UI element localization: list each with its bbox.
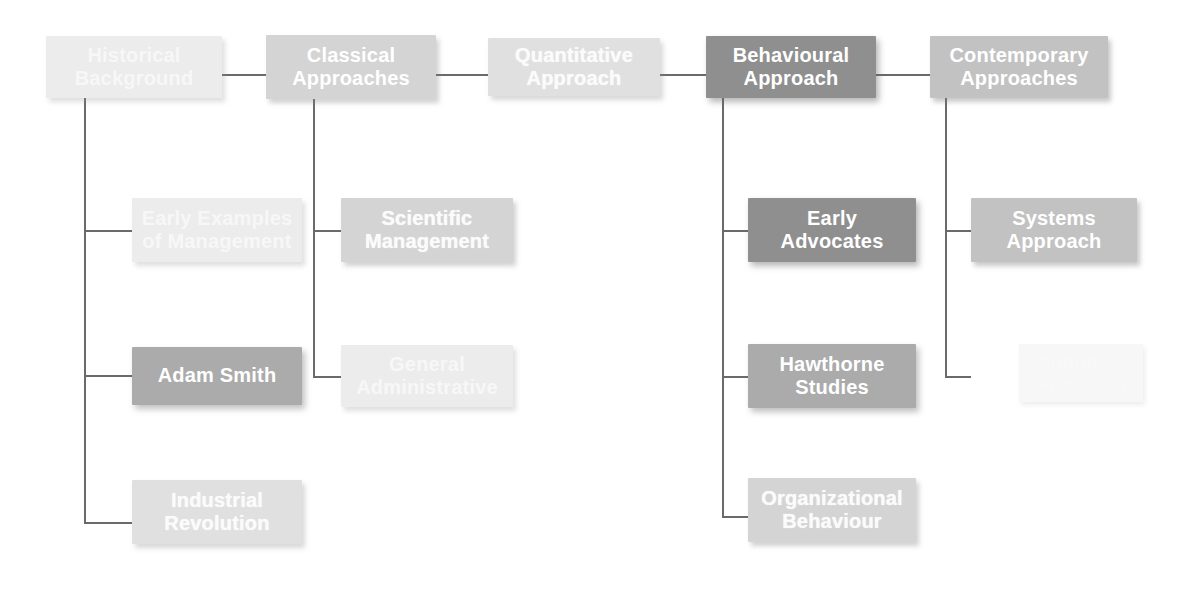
node-label-adam-smith: Adam Smith bbox=[138, 364, 296, 387]
connector-classical-to-quantitative bbox=[434, 74, 490, 76]
spine-historical-background bbox=[84, 98, 86, 524]
node-label-quantitative-approach: Quantitative Approach bbox=[494, 44, 654, 90]
node-label-early-examples-of-management: Early Examples of Management bbox=[138, 207, 296, 253]
node-industrial-revolution[interactable]: Industrial Revolution bbox=[132, 480, 302, 544]
node-historical-background[interactable]: Historical Background bbox=[46, 36, 222, 98]
node-label-contingency-approach: Contingency Approach bbox=[1025, 351, 1137, 395]
node-quantitative-approach[interactable]: Quantitative Approach bbox=[488, 38, 660, 96]
node-label-organizational-behaviour: Organizational Behaviour bbox=[754, 487, 910, 533]
org-chart-canvas: Historical Background Classical Approach… bbox=[0, 0, 1191, 593]
connector-classical-general-administrative bbox=[313, 376, 341, 378]
connector-behavioural-early-advocates bbox=[722, 230, 748, 232]
connector-historical-adam-smith bbox=[84, 375, 132, 377]
node-label-classical-approaches: Classical Approaches bbox=[272, 44, 430, 90]
node-adam-smith[interactable]: Adam Smith bbox=[132, 347, 302, 405]
node-systems-approach[interactable]: Systems Approach bbox=[971, 198, 1137, 262]
node-label-historical-background: Historical Background bbox=[52, 44, 216, 90]
connector-historical-industrial-revolution bbox=[84, 522, 132, 524]
node-early-examples-of-management[interactable]: Early Examples of Management bbox=[132, 198, 302, 262]
node-label-behavioural-approach: Behavioural Approach bbox=[712, 44, 870, 90]
connector-classical-scientific-management bbox=[313, 230, 341, 232]
node-label-industrial-revolution: Industrial Revolution bbox=[138, 489, 296, 535]
node-contingency-approach[interactable]: Contingency Approach bbox=[1019, 344, 1143, 402]
connector-quantitative-to-behavioural bbox=[658, 74, 706, 76]
connector-behavioural-to-contemporary bbox=[876, 74, 932, 76]
node-label-general-administrative: General Administrative bbox=[347, 353, 507, 399]
node-classical-approaches[interactable]: Classical Approaches bbox=[266, 35, 436, 99]
connector-contemporary-contingency-approach bbox=[945, 376, 971, 378]
node-label-systems-approach: Systems Approach bbox=[977, 207, 1131, 253]
node-early-advocates[interactable]: Early Advocates bbox=[748, 198, 916, 262]
node-hawthorne-studies[interactable]: Hawthorne Studies bbox=[748, 344, 916, 408]
spine-behavioural-approach bbox=[722, 98, 724, 518]
node-label-early-advocates: Early Advocates bbox=[754, 207, 910, 253]
spine-contemporary-approaches bbox=[945, 98, 947, 376]
node-contemporary-approaches[interactable]: Contemporary Approaches bbox=[930, 36, 1108, 98]
connector-historical-to-classical bbox=[220, 74, 272, 76]
node-label-contemporary-approaches: Contemporary Approaches bbox=[936, 44, 1102, 90]
node-behavioural-approach[interactable]: Behavioural Approach bbox=[706, 36, 876, 98]
node-scientific-management[interactable]: Scientific Management bbox=[341, 198, 513, 262]
connector-contemporary-systems-approach bbox=[945, 230, 971, 232]
node-organizational-behaviour[interactable]: Organizational Behaviour bbox=[748, 478, 916, 542]
spine-classical-approaches bbox=[313, 98, 315, 378]
connector-behavioural-organizational-behaviour bbox=[722, 516, 748, 518]
connector-historical-early-examples bbox=[84, 230, 132, 232]
node-label-hawthorne-studies: Hawthorne Studies bbox=[754, 353, 910, 399]
node-general-administrative[interactable]: General Administrative bbox=[341, 345, 513, 407]
node-label-scientific-management: Scientific Management bbox=[347, 207, 507, 253]
connector-behavioural-hawthorne-studies bbox=[722, 376, 748, 378]
